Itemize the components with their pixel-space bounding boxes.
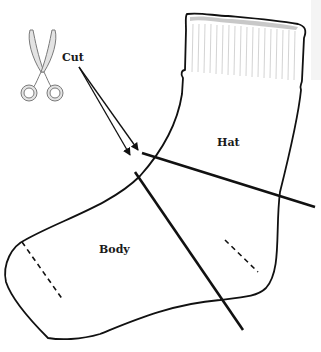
cut-arrow-2 [79,67,138,150]
scissors-icon [21,30,63,101]
hat-label: Hat [217,137,240,148]
sock-cutting-diagram: Cut Hat Body [0,0,321,352]
sock-outline [5,13,305,339]
cut-label: Cut [62,52,84,63]
diagram-artwork [0,0,321,352]
cut-arrow-1 [79,67,130,155]
body-label: Body [99,244,130,255]
